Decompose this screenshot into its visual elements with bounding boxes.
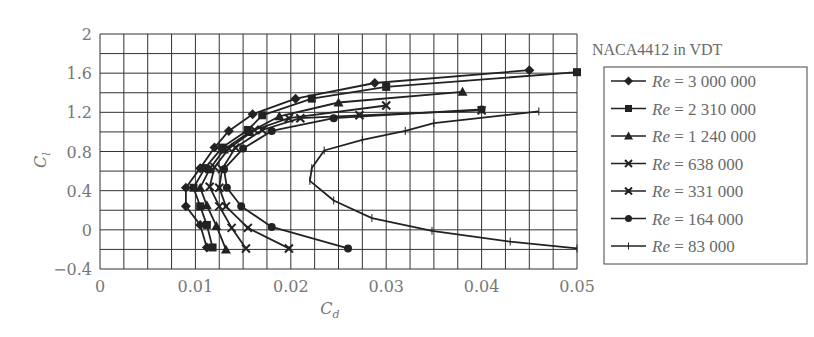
x-axis-label: Cd [320,299,339,321]
drag-polar-chart: 00.010.020.030.040.0521.61.20.80.40−0.4 … [0,0,814,337]
y-tick-label: 2 [82,25,92,44]
legend-label: Re = 638 000 [651,155,743,174]
y-tick-label: 1.2 [67,103,92,122]
series-6 [310,107,577,252]
series-group [181,65,581,253]
legend-label: Re = 3 000 000 [651,72,756,91]
x-tick-label: 0 [95,277,105,296]
x-tick-label: 0.01 [178,277,214,296]
y-tick-label: 0.8 [67,143,92,162]
y-tick-label: 0.4 [67,182,92,201]
legend-title: NACA4412 in VDT [592,41,723,58]
axis-ticks: 00.010.020.030.040.0521.61.20.80.40−0.4 [53,25,595,296]
legend-label: Re = 83 000 [651,237,735,256]
legend: Re = 3 000 000Re = 2 310 000Re = 1 240 0… [604,67,807,264]
legend-label: Re = 1 240 000 [651,127,756,146]
grid [100,34,577,269]
y-tick-label: −0.4 [53,260,92,279]
x-tick-label: 0.02 [273,277,309,296]
series-1 [189,68,581,251]
legend-label: Re = 2 310 000 [651,100,756,119]
y-tick-label: 1.6 [67,64,92,83]
x-tick-label: 0.04 [464,277,500,296]
legend-label: Re = 164 000 [651,210,743,229]
x-tick-label: 0.05 [559,277,595,296]
legend-label: Re = 331 000 [651,182,743,201]
x-tick-label: 0.03 [368,277,404,296]
y-tick-label: 0 [82,221,92,240]
y-axis-label: Cl [31,152,53,168]
